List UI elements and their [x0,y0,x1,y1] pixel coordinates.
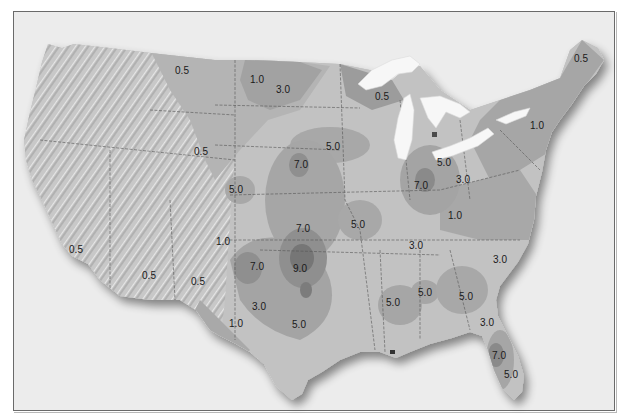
contour-label: 5.0 [459,291,473,302]
contour-label: 3.0 [276,84,290,95]
contour-label: 0.5 [142,270,156,281]
contour-label: 0.5 [574,53,588,64]
contour-label: 3.0 [493,254,507,265]
us-contour-map [0,0,624,418]
zone-9-0-secondary [300,282,312,298]
contour-label: 1.0 [530,120,544,131]
contour-label: 7.0 [414,180,428,191]
contour-label: 3.0 [252,301,266,312]
contour-label: 5.0 [386,297,400,308]
contour-label: 3.0 [409,240,423,251]
contour-label: 5.0 [229,184,243,195]
contour-label: 5.0 [326,141,340,152]
contour-label: 7.0 [294,159,308,170]
contour-label: 5.0 [351,219,365,230]
contour-label: 1.0 [216,236,230,247]
contour-label: 0.5 [194,146,208,157]
contour-label: 1.0 [448,210,462,221]
contour-label: 0.5 [375,91,389,102]
contour-label: 5.0 [437,157,451,168]
contour-label: 3.0 [480,317,494,328]
contour-label: 0.5 [175,65,189,76]
contour-label: 9.0 [293,263,307,274]
detroit-marker [432,132,437,137]
contour-label: 1.0 [250,74,264,85]
contour-label: 5.0 [292,319,306,330]
contour-label: 7.0 [492,350,506,361]
contour-label: 7.0 [250,261,264,272]
contour-label: 3.0 [456,174,470,185]
contour-label: 1.0 [229,318,243,329]
new-orleans-marker [390,350,395,354]
contour-label: 7.0 [296,223,310,234]
contour-label: 0.5 [69,244,83,255]
contour-label: 5.0 [418,287,432,298]
contour-label: 5.0 [504,369,518,380]
contour-label: 0.5 [191,276,205,287]
